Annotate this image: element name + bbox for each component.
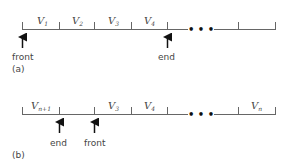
- ellipsis: • • •: [188, 24, 214, 35]
- end-label: end: [158, 52, 175, 62]
- cell-label-v3: V3: [108, 15, 119, 27]
- end-label: end: [50, 138, 67, 148]
- cell-label-v4: V4: [144, 100, 155, 112]
- front-label: front: [12, 52, 34, 62]
- caption-a: (a): [12, 64, 25, 74]
- cell-label-v2: V2: [72, 15, 83, 27]
- front-label: front: [84, 138, 106, 148]
- cell-label-v3: V3: [108, 100, 119, 112]
- diagram-a: • • • V1 V2 V3 V4 front end (a): [12, 15, 276, 74]
- ellipsis: • • •: [188, 109, 214, 120]
- cell-label-v4: V4: [144, 15, 155, 27]
- cell-label-v1: V1: [37, 15, 48, 27]
- cell-label-vn: Vn: [251, 100, 262, 112]
- cell-label-vn-plus-1: Vn+1: [31, 100, 51, 112]
- diagram-b: • • • Vn+1 V3 V4 Vn end front (b): [12, 100, 276, 160]
- caption-b: (b): [12, 150, 25, 160]
- queue-diagram: • • • V1 V2 V3 V4 front end (a) • • • Vn…: [0, 0, 287, 166]
